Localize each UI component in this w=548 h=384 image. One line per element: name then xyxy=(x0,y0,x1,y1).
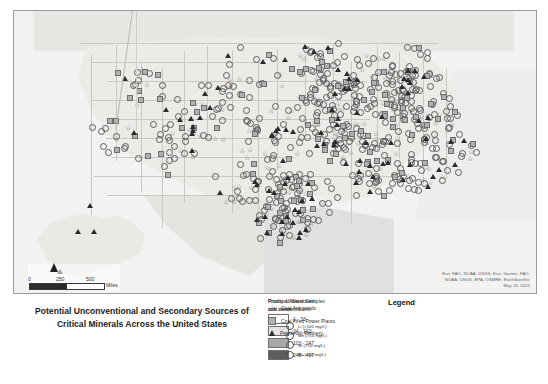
legend-title: Legend xyxy=(388,298,415,307)
scalebar-unit: Miles xyxy=(106,282,118,288)
legend-symbol-label: Coal Fired Power Plants xyxy=(281,318,335,324)
water-sample-class-4: Ba (>10 mg/L) xyxy=(286,351,326,359)
star-icon: ☆ xyxy=(268,304,276,312)
title-line-2: Critical Minerals Across the United Stat… xyxy=(18,318,266,331)
circle-icon xyxy=(286,341,294,349)
legend-symbol-row-1: ☆Coal Ash ponds xyxy=(268,304,316,312)
map-attribution: Esri, FAO, NOAA, USGS, Esri, Garmin, FAO… xyxy=(442,271,530,289)
legend: Legend Priority 1 Abandoned coal mines 1… xyxy=(268,298,538,380)
legend-symbol-label: Coal Ash ponds xyxy=(281,305,316,311)
attribution-line-1: Esri, FAO, NOAA, USGS, Esri, Garmin, FAO… xyxy=(442,271,530,277)
gulf-of-mexico xyxy=(264,207,394,294)
title-line-1: Potential Unconventional and Secondary S… xyxy=(18,305,266,318)
attribution-date: May 23, 2022 xyxy=(442,283,530,289)
triangle-icon xyxy=(269,330,275,336)
inset-divider-line-2 xyxy=(136,11,137,131)
scale-tick-0: 0 xyxy=(28,276,31,282)
page-title: Potential Unconventional and Secondary S… xyxy=(18,305,266,331)
water-sample-class-3: Sr (>10 mg/L) xyxy=(286,341,325,349)
scalebar xyxy=(29,283,105,290)
circle-icon xyxy=(286,351,294,359)
water-sample-label: Ba (>10 mg/L) xyxy=(298,352,326,357)
scale-tick-max: 500 xyxy=(86,276,94,282)
attribution-line-2: NOAA, USGS, EPA, OSMRE, EarthSatellite xyxy=(442,277,530,283)
petroleum-refinery-marker xyxy=(87,203,93,208)
square-icon xyxy=(268,317,276,325)
legend-symbol-label: Petroleum Refinery xyxy=(280,330,323,336)
north-arrow-icon xyxy=(50,263,58,272)
map-frame[interactable]: ☆☆☆☆☆☆☆☆☆☆☆☆☆☆☆☆☆☆☆☆☆☆☆☆☆☆☆☆☆☆☆☆☆☆☆☆☆☆☆☆… xyxy=(13,10,537,294)
water-sample-label: Sr (>10 mg/L) xyxy=(298,343,325,348)
legend-symbol-row-3: Petroleum Refinery xyxy=(268,330,323,336)
scale-tick-mid: 250 xyxy=(56,276,64,282)
legend-symbol-row-2: Coal Fired Power Plants xyxy=(268,317,335,325)
